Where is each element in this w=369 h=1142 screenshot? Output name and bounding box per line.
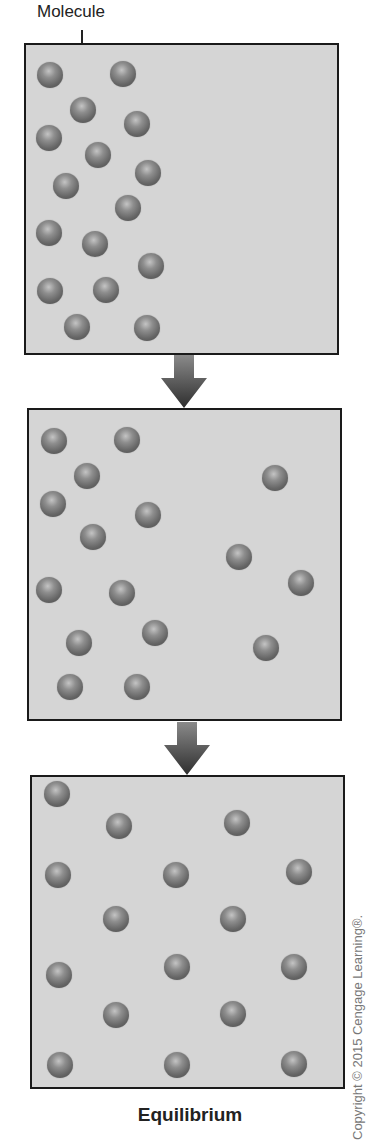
panel-initial-state xyxy=(24,43,339,355)
molecule xyxy=(41,428,67,454)
molecule xyxy=(224,810,250,836)
molecule xyxy=(253,635,279,661)
molecule xyxy=(46,962,72,988)
molecule xyxy=(36,577,62,603)
molecule xyxy=(164,954,190,980)
molecule xyxy=(106,813,132,839)
molecule xyxy=(142,620,168,646)
molecule xyxy=(64,314,90,340)
molecule xyxy=(134,315,160,341)
molecule xyxy=(124,674,150,700)
molecule xyxy=(164,1052,190,1078)
molecule xyxy=(226,544,252,570)
molecule xyxy=(47,1052,73,1078)
molecule xyxy=(70,97,96,123)
down-arrow-icon xyxy=(163,722,211,776)
molecule xyxy=(124,111,150,137)
molecule xyxy=(66,630,92,656)
molecule xyxy=(44,781,70,807)
molecule xyxy=(103,906,129,932)
molecule xyxy=(220,906,246,932)
molecule xyxy=(163,862,189,888)
molecule xyxy=(37,278,63,304)
molecule xyxy=(57,674,83,700)
molecule xyxy=(286,859,312,885)
molecule xyxy=(37,62,63,88)
molecule xyxy=(82,231,108,257)
molecule xyxy=(93,277,119,303)
molecule xyxy=(40,491,66,517)
molecule xyxy=(135,160,161,186)
panel-equilibrium-state xyxy=(30,775,345,1089)
molecule xyxy=(135,502,161,528)
copyright-notice: Copyright © 2015 Cengage Learning®. xyxy=(350,915,366,1140)
molecule xyxy=(36,220,62,246)
molecule xyxy=(36,125,62,151)
molecule xyxy=(85,142,111,168)
molecule xyxy=(115,195,141,221)
molecule xyxy=(281,954,307,980)
molecule xyxy=(80,524,106,550)
molecule xyxy=(262,465,288,491)
molecule xyxy=(110,61,136,87)
molecule-label: Molecule xyxy=(37,1,105,23)
down-arrow-icon xyxy=(160,355,208,409)
molecule xyxy=(220,1001,246,1027)
molecule xyxy=(281,1051,307,1077)
molecule xyxy=(45,862,71,888)
molecule xyxy=(74,463,100,489)
molecule xyxy=(103,1002,129,1028)
molecule xyxy=(114,427,140,453)
equilibrium-caption: Equilibrium xyxy=(0,1104,369,1126)
molecule xyxy=(109,580,135,606)
molecule xyxy=(53,173,79,199)
molecule xyxy=(288,570,314,596)
molecule xyxy=(138,253,164,279)
